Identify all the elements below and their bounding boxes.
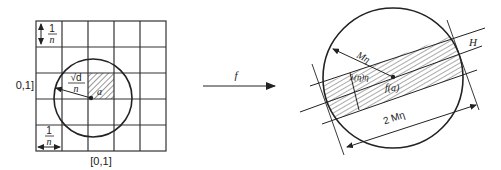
mapping-label: f — [234, 69, 239, 81]
top-fraction-den: n — [50, 34, 55, 45]
band-width-label: λ(η)η — [349, 72, 369, 82]
vertical-interval-label: 0,1] — [16, 79, 34, 91]
radius-fraction-den: n — [74, 83, 79, 94]
bottom-fraction-den: n — [47, 136, 52, 147]
diameter-label: 2 Mη — [382, 109, 407, 126]
horizontal-interval-label: [0,1] — [90, 155, 111, 167]
diameter-arrow — [347, 105, 476, 147]
radius-label-right: Mη — [354, 49, 372, 65]
radius-fraction-num: √d — [70, 72, 81, 83]
point-fa-label: f(a) — [385, 82, 400, 94]
point-a-label: a — [97, 86, 102, 97]
diagram-canvas: 1 n 1 n √d n a 0,1] [0,1] f Mη λ(η)η f(a… — [0, 0, 501, 170]
top-fraction-num: 1 — [49, 23, 55, 34]
hyperplane-label: H — [468, 36, 478, 48]
bottom-fraction-num: 1 — [46, 125, 52, 136]
image-region — [300, 8, 500, 155]
